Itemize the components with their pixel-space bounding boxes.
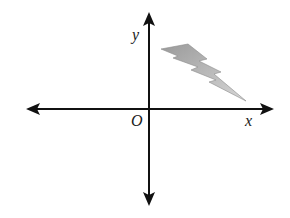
coordinate-plane: y x O (0, 0, 290, 218)
origin-label: O (131, 112, 143, 129)
x-axis-label: x (244, 112, 252, 129)
lightning-bolt-shape (161, 44, 246, 101)
y-axis-label: y (130, 26, 140, 44)
